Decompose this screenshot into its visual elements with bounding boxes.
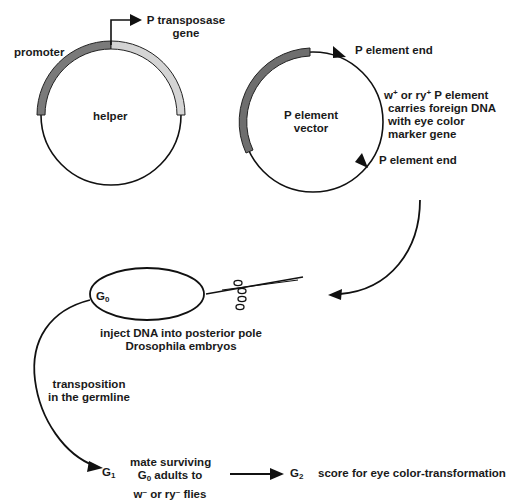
- pole-cell: [236, 304, 244, 309]
- vector-to-embryo-arrow: [340, 200, 420, 294]
- injection-caption: inject DNA into posterior pole Drosophil…: [96, 327, 266, 353]
- score-text: score for eye color-transformation: [318, 467, 506, 480]
- p-element-end-top-label: P element end: [355, 44, 433, 57]
- germline-label-line1: transposition: [48, 378, 130, 391]
- p-element-end-top-arrowhead-icon: [333, 46, 346, 58]
- p-element-end-bottom-label: P element end: [379, 154, 457, 167]
- g1-label: G1: [102, 466, 115, 482]
- germline-label-line2: in the germline: [48, 391, 130, 404]
- transposase-gene-label: P transposase gene: [146, 14, 226, 40]
- vector-name-line2: vector: [276, 122, 346, 135]
- vector-description-line2: carries foreign DNA: [384, 102, 496, 115]
- injection-caption-line2: Drosophila embryos: [96, 340, 266, 353]
- helper-name-label: helper: [93, 110, 128, 123]
- germline-arrowhead-icon: [87, 461, 103, 472]
- germline-label: transposition in the germline: [48, 378, 130, 404]
- vector-description-line4: marker gene: [384, 128, 496, 141]
- g0-label: G0: [96, 290, 109, 306]
- mating-text: mate surviving G0 adults to w– or ry– fl…: [130, 456, 210, 501]
- transposase-gene-label-line2: gene: [146, 27, 226, 40]
- vector-to-embryo-arrowhead-icon: [328, 289, 342, 300]
- mating-text-line3: w– or ry– flies: [130, 485, 210, 501]
- injection-caption-line1: inject DNA into posterior pole: [96, 327, 266, 340]
- vector-name-line1: P element: [276, 109, 346, 122]
- diagram-canvas: [0, 0, 511, 503]
- p-element-end-bottom-arrowhead-icon: [355, 153, 368, 168]
- transposase-gene-segment: [111, 41, 185, 115]
- vector-description-line1: w+ or ry+ P element: [384, 86, 496, 102]
- vector-description: w+ or ry+ P element carries foreign DNA …: [384, 86, 496, 141]
- transcription-arrowhead-icon: [130, 14, 142, 26]
- vector-description-line3: with eye color: [384, 115, 496, 128]
- mating-text-line2: G0 adults to: [130, 469, 210, 485]
- mating-text-line1: mate surviving: [130, 456, 210, 469]
- pole-cell: [238, 288, 246, 293]
- pole-cell: [238, 296, 246, 301]
- vector-name-label: P element vector: [276, 109, 346, 135]
- g2-label: G2: [290, 467, 303, 483]
- promoter-label: promoter: [14, 46, 64, 59]
- pole-cell: [234, 280, 242, 285]
- injection-needle: [222, 280, 298, 290]
- g1-to-g2-arrowhead-icon: [270, 468, 284, 480]
- embryo: [90, 268, 303, 320]
- transposase-gene-label-line1: P transposase: [146, 14, 226, 27]
- vector-insert-segment: [239, 48, 310, 153]
